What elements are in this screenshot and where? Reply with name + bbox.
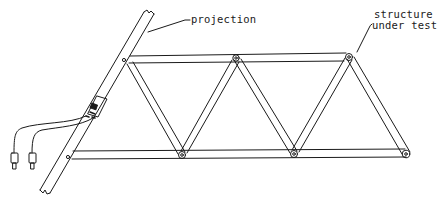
projection-label: projection <box>191 13 256 25</box>
bottom-chord <box>72 149 406 159</box>
cables <box>14 116 93 153</box>
projection-bar <box>40 10 154 194</box>
structure-label-line2: under test <box>372 19 437 31</box>
projection-leader <box>148 20 190 32</box>
truss-joints <box>179 54 410 159</box>
sensor-gauge <box>86 96 107 118</box>
truss-diagonals <box>127 57 410 154</box>
cable-connectors <box>11 153 36 169</box>
structure-leader <box>357 24 372 52</box>
